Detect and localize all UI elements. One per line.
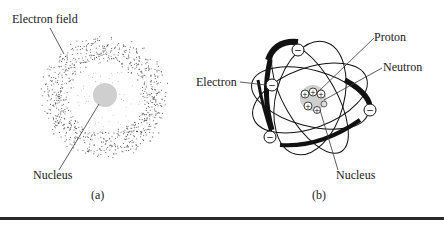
svg-text:−: − <box>294 45 302 55</box>
caption-b: (b) <box>312 188 326 202</box>
label-electron: Electron <box>196 75 237 89</box>
label-electron-field: Electron field <box>12 12 78 26</box>
svg-text:+: + <box>305 103 311 111</box>
nucleus-a <box>93 83 117 107</box>
label-neutron: Neutron <box>383 60 422 74</box>
svg-text:−: − <box>366 105 374 115</box>
svg-text:+: + <box>310 89 316 97</box>
label-proton: Proton <box>374 30 406 44</box>
svg-text:+: + <box>314 107 320 115</box>
leader-electron-field <box>50 28 64 54</box>
svg-text:+: + <box>318 91 324 99</box>
label-nucleus-a: Nucleus <box>33 168 72 182</box>
svg-text:−: − <box>268 80 276 90</box>
svg-text:−: − <box>266 132 274 142</box>
label-nucleus-b: Nucleus <box>336 168 375 182</box>
svg-text:+: + <box>302 91 308 99</box>
page-rule <box>0 217 444 220</box>
caption-a: (a) <box>91 188 104 202</box>
